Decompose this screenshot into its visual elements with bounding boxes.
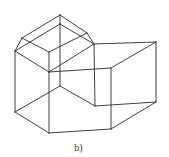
edge-left-front	[15, 51, 49, 72]
edge-notch_corner-far_right_top	[111, 42, 156, 68]
edge-notch_bottom-far_right_bottom	[95, 102, 156, 106]
edge-inner_apex-left	[15, 24, 60, 51]
edge-front_bottom-right_bottom	[49, 129, 111, 133]
figure-caption-container: b)	[0, 142, 169, 153]
edge-apex-right_bevel	[60, 15, 87, 33]
edge-front-notch_corner	[49, 68, 111, 72]
edge-apex-left_bevel	[22, 15, 60, 38]
edge-left_bottom-front_bottom	[15, 112, 49, 133]
edge-right_top-far_right_top	[94, 42, 156, 44]
edge-left_bevel-front_inner	[22, 38, 49, 52]
edge-core_bottom-notch_bottom	[60, 86, 95, 106]
edge-inner_apex-right_top	[60, 24, 94, 44]
edge-right_bottom-far_right_bottom	[111, 102, 156, 129]
edge-core_bottom-left_bottom	[15, 86, 60, 112]
edge-right_top-notch_bottom	[94, 44, 95, 106]
edge-right_bevel-front_inner	[49, 33, 87, 52]
wireframe-solid-diagram	[0, 0, 169, 157]
figure-caption: b)	[74, 142, 82, 153]
